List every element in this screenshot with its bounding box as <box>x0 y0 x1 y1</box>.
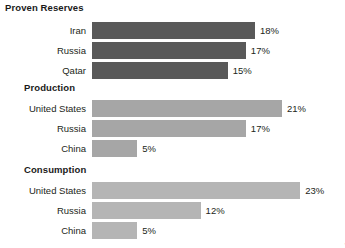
bar-category-label: Iran <box>0 22 86 39</box>
chart-row: Iran18% <box>0 22 345 39</box>
chart-row: United States23% <box>0 182 345 199</box>
section-title: Production <box>24 82 75 93</box>
section-title: Proven Reserves <box>5 2 84 13</box>
bar <box>92 120 246 137</box>
chart-row: China5% <box>0 140 345 157</box>
bar-value-label: 5% <box>142 222 156 239</box>
bar-value-label: 12% <box>206 202 225 219</box>
chart-row: Russia17% <box>0 120 345 137</box>
bar-category-label: United States <box>0 100 86 117</box>
bar-category-label: United States <box>0 182 86 199</box>
bar-value-label: 17% <box>251 120 270 137</box>
bar-value-label: 18% <box>260 22 279 39</box>
chart-row: Russia12% <box>0 202 345 219</box>
bar-value-label: 21% <box>287 100 306 117</box>
bar-category-label: Russia <box>0 42 86 59</box>
bar-value-label: 17% <box>251 42 270 59</box>
bar <box>92 182 300 199</box>
bar-category-label: Russia <box>0 120 86 137</box>
bar <box>92 62 228 79</box>
bar-value-label: 5% <box>142 140 156 157</box>
bar-category-label: China <box>0 222 86 239</box>
chart-row: Russia17% <box>0 42 345 59</box>
chart-row: China5% <box>0 222 345 239</box>
bar <box>92 42 246 59</box>
bar <box>92 22 255 39</box>
chart-row: United States21% <box>0 100 345 117</box>
bar-category-label: Qatar <box>0 62 86 79</box>
bar-category-label: China <box>0 140 86 157</box>
bar-value-label: 23% <box>305 182 324 199</box>
bar <box>92 202 201 219</box>
bar <box>92 222 137 239</box>
bar-category-label: Russia <box>0 202 86 219</box>
bar <box>92 140 137 157</box>
chart-row: Qatar15% <box>0 62 345 79</box>
section-title: Consumption <box>24 164 86 175</box>
bar <box>92 100 282 117</box>
bar-chart: Proven ReservesIran18%Russia17%Qatar15%P… <box>0 0 345 248</box>
bar-value-label: 15% <box>233 62 252 79</box>
